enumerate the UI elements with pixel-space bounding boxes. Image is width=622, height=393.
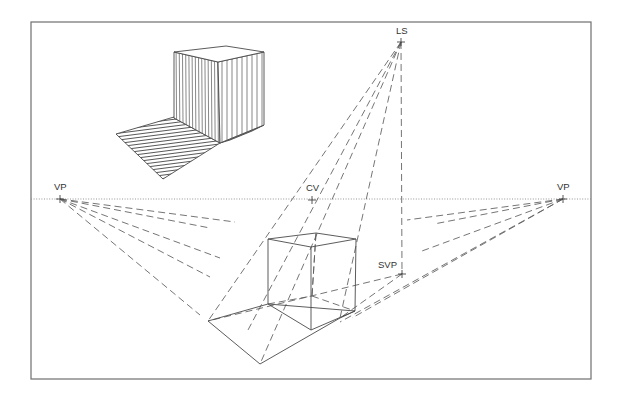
construction-line xyxy=(248,42,401,330)
construction-line xyxy=(401,42,402,274)
hidden-edge xyxy=(312,233,316,296)
ls-marker: LS xyxy=(396,25,408,46)
construction-line xyxy=(340,274,402,318)
construction-line xyxy=(312,233,316,296)
ls-label: LS xyxy=(396,25,408,36)
cube-edge xyxy=(268,304,311,330)
reference-points: VPCVVPLSSVP xyxy=(54,25,570,278)
construction-line xyxy=(260,42,401,364)
construction-line xyxy=(434,199,563,224)
perspective-diagram: VPCVVPLSSVP xyxy=(0,0,622,393)
construction-line xyxy=(340,42,401,318)
construction-line xyxy=(60,199,220,258)
inset-solid-cube xyxy=(100,2,264,217)
cv-label: CV xyxy=(306,182,320,193)
construction-line xyxy=(340,199,563,322)
wireframe-cube xyxy=(208,233,356,364)
hidden-edge xyxy=(268,296,312,304)
vp-right-label: VP xyxy=(557,181,570,192)
projected-shadow xyxy=(208,304,355,364)
svp-label: SVP xyxy=(378,259,397,270)
cv-marker: CV xyxy=(306,182,320,204)
construction-line xyxy=(60,199,210,277)
cube-left-face xyxy=(174,52,220,143)
construction-line xyxy=(60,199,200,315)
vp-left-label: VP xyxy=(54,181,67,192)
hidden-edge xyxy=(312,296,355,311)
construction-line xyxy=(60,199,210,228)
cube-edge xyxy=(311,311,355,330)
construction-line xyxy=(422,199,563,251)
construction-line xyxy=(60,199,235,222)
construction-lines xyxy=(60,42,563,364)
construction-line xyxy=(407,199,563,220)
